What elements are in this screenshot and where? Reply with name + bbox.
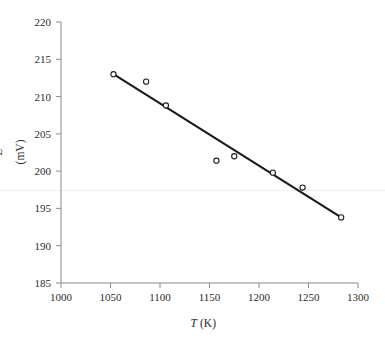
trend-line: [113, 74, 341, 217]
y-tick-label: 185: [35, 277, 52, 289]
x-axis: [61, 283, 358, 288]
y-tick-label: 210: [35, 91, 52, 103]
y-axis-title: E (mV): [0, 139, 27, 164]
y-axis-title-variable: E: [0, 148, 4, 156]
x-tick-label: 1200: [248, 291, 271, 303]
data-point: [232, 154, 237, 159]
x-tick-label: 1300: [347, 291, 370, 303]
y-tick-label: 190: [35, 240, 52, 252]
x-axis-title: T (K): [191, 317, 217, 330]
x-axis-title-unit: (K): [200, 317, 216, 330]
data-point: [163, 103, 168, 108]
x-tick-label: 1150: [199, 291, 221, 303]
chart-page: 185 190 195 200 205 210 215 220 1000 105…: [0, 0, 385, 345]
data-point: [144, 79, 149, 84]
data-point: [111, 72, 116, 77]
x-axis-title-variable: T: [191, 317, 199, 329]
x-tick-label: 1000: [50, 291, 73, 303]
x-tick-labels: 1000 1050 1100 1150 1200 1250 1300: [50, 291, 370, 303]
y-tick-labels: 185 190 195 200 205 210 215 220: [35, 16, 52, 289]
y-tick-label: 200: [35, 165, 52, 177]
data-point: [270, 170, 275, 175]
y-tick-label: 205: [35, 128, 52, 140]
y-tick-label: 220: [35, 16, 52, 28]
y-tick-label: 215: [35, 53, 52, 65]
x-tick-label: 1050: [100, 291, 123, 303]
x-tick-label: 1250: [298, 291, 321, 303]
y-axis: [56, 22, 61, 283]
scatter-plot: 185 190 195 200 205 210 215 220 1000 105…: [0, 0, 385, 345]
y-axis-title-unit: (mV): [14, 139, 27, 164]
x-tick-label: 1100: [149, 291, 171, 303]
data-point: [339, 215, 344, 220]
y-tick-label: 195: [35, 202, 52, 214]
data-point: [300, 185, 305, 190]
data-point: [214, 158, 219, 163]
